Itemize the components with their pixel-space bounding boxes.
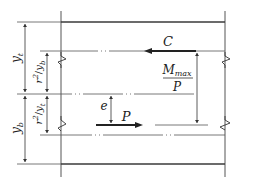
svg-text:P: P: [172, 80, 182, 94]
left-break-symbol-bottom: [58, 116, 66, 131]
prestress-force-label: P: [121, 109, 131, 124]
beam-section-diagram: yt yb r2/yb r2/yt C P e Mmax P: [0, 0, 258, 183]
eccentricity-label: e: [100, 99, 107, 113]
svg-text:yb: yb: [9, 122, 25, 135]
svg-text:Mmax: Mmax: [161, 63, 192, 78]
right-break-symbol-top: [222, 52, 230, 68]
yb-label: yb: [9, 122, 25, 135]
compression-force-label: C: [163, 34, 173, 49]
left-break-symbol-top: [58, 52, 66, 68]
svg-text:yt: yt: [9, 52, 25, 64]
svg-text:r2/yt: r2/yt: [32, 103, 47, 124]
yt-label: yt: [9, 52, 25, 64]
r2-yb-label: r2/yb: [32, 60, 47, 83]
r2-yt-label: r2/yt: [32, 103, 47, 124]
prestress-arrowhead: [135, 122, 143, 128]
moment-ratio-label: Mmax P: [161, 63, 193, 94]
compression-arrowhead: [144, 48, 152, 54]
svg-text:r2/yb: r2/yb: [32, 60, 47, 83]
